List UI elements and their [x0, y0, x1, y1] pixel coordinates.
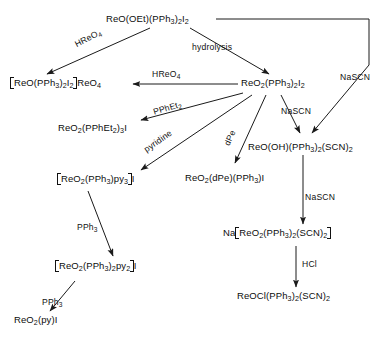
reaction-scheme-diagram: ReO(OEt)(PPh3)2I2 ReO(PPh3)2I2ReO4 ReO2(…	[0, 0, 389, 349]
label-reagent-nascn-center: NaSCN	[281, 106, 311, 116]
node-reocl-pph3-scn2: ReOCl(PPh3)2(SCN)2	[237, 291, 330, 301]
node-reo2-pph3-py3-i: ReO2(PPh3)py3I	[57, 174, 134, 184]
node-reo2-py-i: ReO2(py)I	[14, 315, 57, 325]
node-reo-oh-pph3-scn2: ReO(OH)(PPh3)2(SCN)2	[248, 142, 353, 152]
label-reagent-nascn-right: NaSCN	[340, 72, 370, 82]
label-reagent-hydrolysis: hydrolysis	[192, 42, 232, 52]
node-reo2-pph3-2-py2-i: ReO2(PPh3)2py2I	[55, 261, 137, 271]
node-reo2-pph3-i2: ReO2(PPh3)2I2	[241, 78, 305, 88]
label-reagent-hreo4-diagonal: HReO4	[73, 27, 103, 49]
label-reagent-hcl: HCl	[302, 259, 317, 269]
node-reo-pph3-i2-reo4: ReO(PPh3)2I2ReO4	[10, 78, 101, 88]
label-reagent-nascn-lower: NaSCN	[305, 192, 335, 202]
node-reo2-dpe-pph3-i: ReO2(dPe)(PPh3)I	[185, 173, 264, 183]
label-reagent-pph3-upper: PPh3	[77, 222, 98, 232]
label-reagent-pyridine: pyridine	[142, 128, 174, 154]
label-reagent-dpe: dPe	[222, 128, 238, 147]
label-reagent-pphet2: PPhEt2	[152, 99, 183, 117]
node-reo-oet-pph3-i2: ReO(OEt)(PPh3)2I2	[106, 14, 189, 24]
node-na-reo2-pph3-scn2: NaReO2(PPh3)2(SCN)2	[223, 228, 331, 238]
arrow-n3-to-n6	[235, 95, 266, 163]
label-reagent-pph3-lower: PPh3	[42, 297, 63, 307]
label-reagent-hreo4-horizontal: HReO4	[152, 69, 181, 79]
node-reo2-pphet2-3-i: ReO2(PPhEt2)3I	[58, 123, 127, 133]
